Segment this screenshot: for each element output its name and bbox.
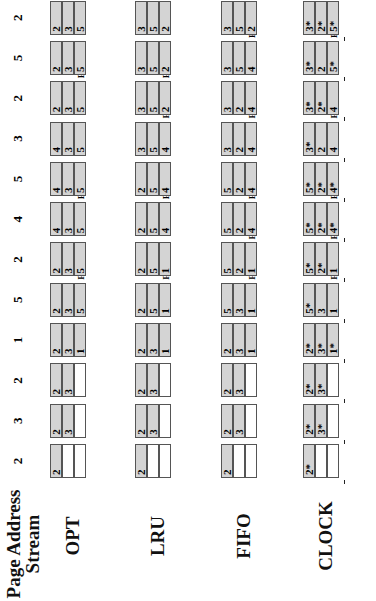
frame-cell: 2 — [221, 323, 233, 357]
frame-cell: 5 — [147, 283, 159, 317]
frame-cell — [327, 444, 339, 478]
clock-pointer-arrow — [344, 319, 345, 323]
frame-cell: 2 — [159, 41, 171, 75]
row-label-opt: OPT — [62, 491, 84, 581]
frame-cell: 3 — [135, 1, 147, 35]
frame-cell: 4 — [327, 122, 339, 156]
frame-cell: 5 — [147, 1, 159, 35]
frame-cell: 3 — [62, 283, 74, 317]
frame-cell: 3 — [233, 404, 245, 438]
frame-cell: 5 — [74, 243, 86, 277]
stream-value: 4 — [10, 209, 26, 229]
frame-cell: 4 — [50, 162, 62, 196]
frame-cell: 2 — [221, 404, 233, 438]
stream-value: 5 — [10, 290, 26, 310]
frame-cell: 4 — [159, 162, 171, 196]
frame-cell: 3 — [135, 41, 147, 75]
stream-value: 2 — [10, 88, 26, 108]
frame-cell: 2 — [50, 81, 62, 115]
frame-cell: 5* — [327, 41, 339, 75]
frame-cell: 5 — [147, 41, 159, 75]
frame-cell: 5* — [303, 202, 315, 236]
frame-cell: 2 — [221, 363, 233, 397]
frame-cell: 3 — [221, 81, 233, 115]
frame-cell: 2* — [303, 404, 315, 438]
diagram-title: Page Address Stream — [4, 489, 42, 599]
frame-cell: 2* — [315, 243, 327, 277]
clock-pointer-arrow — [344, 359, 345, 363]
frame-cell: 5 — [74, 41, 86, 75]
frame-cell: 5 — [221, 243, 233, 277]
frame-cell: 4 — [50, 202, 62, 236]
frame-cell: 5 — [147, 202, 159, 236]
frame-cell: 5 — [74, 283, 86, 317]
frame-cell: 2 — [315, 41, 327, 75]
stream-value: 2 — [10, 370, 26, 390]
frame-cell: 2 — [50, 283, 62, 317]
frame-cell: 1 — [159, 283, 171, 317]
frame-cell: 2 — [135, 404, 147, 438]
frame-cell: 3* — [303, 41, 315, 75]
stream-value: 2 — [10, 8, 26, 28]
frame-cell: 3 — [221, 41, 233, 75]
frame-cell: 2* — [315, 81, 327, 115]
frame-cell: 2* — [303, 363, 315, 397]
frame-cell: 5* — [303, 162, 315, 196]
frame-cell: 5* — [327, 1, 339, 35]
frame-cell: 3* — [315, 404, 327, 438]
frame-cell: 5 — [221, 202, 233, 236]
frame-cell: 2 — [233, 243, 245, 277]
frame-cell: 4* — [327, 202, 339, 236]
frame-cell: 4 — [159, 122, 171, 156]
frame-cell: 3 — [62, 122, 74, 156]
frame-cell: 5 — [74, 1, 86, 35]
stream-value: 5 — [10, 48, 26, 68]
frame-cell — [327, 404, 339, 438]
frame-cell: 3 — [62, 243, 74, 277]
row-label-lru: LRU — [147, 491, 169, 581]
clock-pointer-arrow — [344, 117, 345, 121]
frame-cell: 2 — [135, 363, 147, 397]
frame-cell: 3 — [221, 1, 233, 35]
clock-pointer-arrow — [344, 238, 345, 242]
frame-cell: 3 — [233, 283, 245, 317]
frame-cell: 2* — [303, 323, 315, 357]
frame-cell: 2 — [221, 444, 233, 478]
frame-cell: 3 — [62, 81, 74, 115]
frame-cell: 2 — [50, 363, 62, 397]
stream-value: 5 — [10, 169, 26, 189]
stream-value: 1 — [10, 330, 26, 350]
frame-cell: 2 — [159, 81, 171, 115]
frame-cell — [245, 444, 257, 478]
frame-cell — [245, 363, 257, 397]
frame-cell: 2 — [245, 1, 257, 35]
frame-cell: 3* — [303, 122, 315, 156]
frame-cell: 5 — [147, 81, 159, 115]
frame-cell: 2 — [159, 1, 171, 35]
frame-cell: 2 — [50, 41, 62, 75]
frame-cell — [74, 363, 86, 397]
frame-cell: 1 — [245, 243, 257, 277]
frame-cell: 1 — [327, 283, 339, 317]
frame-cell: 2 — [233, 81, 245, 115]
frame-cell: 5 — [74, 162, 86, 196]
frame-cell — [245, 404, 257, 438]
frame-cell: 5 — [74, 122, 86, 156]
frame-cell: 2 — [315, 122, 327, 156]
frame-cell — [159, 404, 171, 438]
frame-cell: 5 — [233, 1, 245, 35]
frame-cell: 2 — [233, 122, 245, 156]
frame-cell: 3 — [315, 283, 327, 317]
frame-cell: 2 — [135, 323, 147, 357]
frame-cell: 3 — [147, 363, 159, 397]
frame-cell: 3 — [233, 323, 245, 357]
frame-cell: 2 — [233, 202, 245, 236]
frame-cell: 4 — [50, 122, 62, 156]
frame-cell: 1 — [74, 323, 86, 357]
frame-cell: 3 — [62, 323, 74, 357]
clock-pointer-arrow — [344, 158, 345, 162]
frame-cell: 2 — [50, 323, 62, 357]
frame-cell: 5 — [74, 81, 86, 115]
frame-cell: 2 — [233, 162, 245, 196]
frame-cell — [159, 444, 171, 478]
